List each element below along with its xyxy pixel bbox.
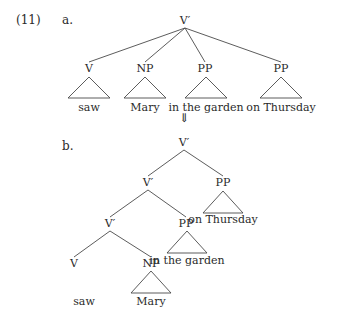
node-b-pp1: PP xyxy=(216,176,231,189)
terminal-word: Mary xyxy=(136,295,166,308)
tree-edge xyxy=(145,28,185,62)
triangle-icon xyxy=(167,231,207,253)
terminal-word: in the garden xyxy=(168,101,243,114)
tree-label-b: b. xyxy=(62,139,74,153)
node-a-v: V xyxy=(84,62,94,75)
terminal-word: on Thursday xyxy=(188,213,258,226)
terminal-word: Mary xyxy=(130,101,160,114)
triangle-icon xyxy=(68,77,110,98)
tree-edge xyxy=(148,150,184,176)
terminal-word: on Thursday xyxy=(246,101,316,114)
tree-edge xyxy=(185,28,205,62)
node-b-v1: V′ xyxy=(142,176,154,189)
triangle-icon xyxy=(203,191,243,213)
tree-a: a.V′VNPPPPPsawMaryin the gardenon Thursd… xyxy=(62,13,316,114)
tree-edge xyxy=(148,190,186,217)
node-b-v: V xyxy=(69,257,79,270)
tree-edge xyxy=(74,231,110,257)
triangle-icon xyxy=(124,77,166,98)
syntax-tree-diagram: (11) ⇓ a.V′VNPPPPPsawMaryin the gardenon… xyxy=(0,0,340,325)
tree-edge xyxy=(185,28,281,62)
node-a-np: NP xyxy=(136,62,154,75)
node-a-pp2: PP xyxy=(274,62,289,75)
node-a-pp1: PP xyxy=(198,62,213,75)
node-b-v2: V′ xyxy=(104,217,116,230)
tree-edge xyxy=(184,150,223,176)
node-b-root: V′ xyxy=(178,136,190,149)
triangle-icon xyxy=(131,271,171,293)
triangle-icon xyxy=(260,77,302,98)
example-number: (11) xyxy=(16,13,41,27)
tree-edge xyxy=(89,28,185,62)
terminal-word: saw xyxy=(78,101,100,114)
tree-edge xyxy=(110,231,151,257)
terminal-word: in the garden xyxy=(149,254,224,267)
terminal-word: saw xyxy=(73,295,95,308)
node-a-root: V′ xyxy=(179,14,191,27)
tree-edge xyxy=(110,190,148,217)
tree-b: b.V′V′PPV′PPVNPon Thursdayin the gardenM… xyxy=(62,136,258,308)
triangle-icon xyxy=(185,77,227,98)
tree-label-a: a. xyxy=(62,13,73,27)
